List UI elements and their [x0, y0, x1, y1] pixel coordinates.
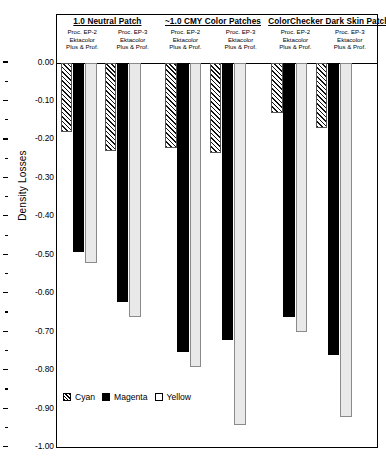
subgroup-label: Proc. EP-3EktacolorPlus & Prof. — [213, 28, 268, 62]
y-tick-minor — [5, 273, 8, 274]
y-tick-label: -0.80 — [8, 365, 54, 373]
outline-swatch-icon — [155, 393, 163, 401]
y-tick-minor — [5, 81, 8, 82]
subgroup-label-line: Proc. EP-3 — [213, 28, 268, 36]
y-tick-minor — [5, 388, 8, 389]
subgroup-label-line: Ektacolor — [268, 36, 322, 44]
bar-magenta — [328, 63, 340, 355]
bar-magenta — [283, 63, 295, 317]
legend-label: Magenta — [114, 392, 147, 402]
legend-item: Yellow — [155, 392, 192, 402]
bar-cyan — [271, 63, 283, 113]
bar-yellow — [129, 63, 141, 317]
bar-magenta — [73, 63, 85, 252]
subgroup-label-line: Plus & Prof. — [158, 43, 213, 51]
y-tick-minor — [5, 196, 8, 197]
density-losses-bar-chart: Density Losses 0.00-0.10-0.20-0.30-0.40-… — [0, 0, 386, 463]
group-title: ColorChecker Dark Skin Patch — [268, 17, 377, 26]
y-tick-minor — [5, 119, 8, 120]
subgroup-label: Proc. EP-2EktacolorPlus & Prof. — [268, 28, 322, 62]
y-tick-minor — [5, 158, 8, 159]
y-tick-label: -0.30 — [8, 173, 54, 181]
subgroup-label-line: Plus & Prof. — [323, 43, 377, 51]
subgroup-label: Proc. EP-2EktacolorPlus & Prof. — [57, 28, 107, 62]
bar-cyan — [210, 63, 222, 153]
group-header: 1.0 Neutral PatchProc. EP-2EktacolorPlus… — [57, 15, 158, 63]
chart-legend: CyanMagentaYellow — [63, 392, 191, 402]
hatched-swatch-icon — [63, 393, 71, 401]
subgroup-label-line: Ektacolor — [213, 36, 268, 44]
subgroup-label-line: Ektacolor — [57, 36, 107, 44]
group-title: 1.0 Neutral Patch — [57, 17, 158, 26]
solid-black-swatch-icon — [102, 393, 110, 401]
bar-yellow — [190, 63, 202, 367]
bar-yellow — [296, 63, 308, 332]
legend-label: Yellow — [167, 392, 192, 402]
subgroup-label-line: Proc. EP-2 — [268, 28, 322, 36]
subgroup-label-line: Plus & Prof. — [107, 43, 157, 51]
legend-item: Magenta — [102, 392, 147, 402]
subgroup-label-line: Proc. EP-2 — [158, 28, 213, 36]
y-tick-minor — [5, 427, 8, 428]
y-axis-title: Density Losses — [17, 126, 28, 246]
y-tick-label: -0.50 — [8, 250, 54, 258]
group-header-row: 1.0 Neutral PatchProc. EP-2EktacolorPlus… — [57, 15, 377, 63]
subgroup-labels: Proc. EP-2EktacolorPlus & Prof.Proc. EP-… — [57, 28, 158, 62]
y-tick-label: -0.10 — [8, 96, 54, 104]
legend-label: Cyan — [75, 392, 95, 402]
group-title: ~1.0 CMY Color Patches — [158, 17, 268, 26]
bar-magenta — [117, 63, 129, 302]
y-tick-label: -0.60 — [8, 288, 54, 296]
bar-magenta — [177, 63, 189, 352]
subgroup-label: Proc. EP-2EktacolorPlus & Prof. — [158, 28, 213, 62]
subgroup-label-line: Ektacolor — [107, 36, 157, 44]
y-tick-label: -0.90 — [8, 404, 54, 412]
y-tick-label: -0.70 — [8, 327, 54, 335]
y-tick-label: -0.20 — [8, 134, 54, 142]
bar-yellow — [340, 63, 352, 417]
subgroup-labels: Proc. EP-2EktacolorPlus & Prof.Proc. EP-… — [158, 28, 268, 62]
subgroup-label: Proc. EP-3EktacolorPlus & Prof. — [323, 28, 377, 62]
subgroup-label-line: Proc. EP-3 — [323, 28, 377, 36]
subgroup-label-line: Plus & Prof. — [213, 43, 268, 51]
subgroup-label-line: Proc. EP-2 — [57, 28, 107, 36]
subgroup-label-line: Plus & Prof. — [57, 43, 107, 51]
legend-item: Cyan — [63, 392, 95, 402]
subgroup-labels: Proc. EP-2EktacolorPlus & Prof.Proc. EP-… — [268, 28, 377, 62]
bars-container — [57, 63, 377, 447]
subgroup-label-line: Proc. EP-3 — [107, 28, 157, 36]
y-tick-label: -0.40 — [8, 211, 54, 219]
y-tick-minor — [5, 311, 8, 312]
bar-cyan — [105, 63, 117, 151]
y-tick-minor — [5, 235, 8, 236]
bar-yellow — [85, 63, 97, 263]
bar-cyan — [61, 63, 73, 132]
subgroup-label-line: Ektacolor — [323, 36, 377, 44]
subgroup-label-line: Ektacolor — [158, 36, 213, 44]
y-tick-label: -1.00 — [8, 442, 54, 450]
group-header: ColorChecker Dark Skin PatchProc. EP-2Ek… — [268, 15, 377, 63]
y-tick-minor — [5, 350, 8, 351]
y-tick-label: 0.00 — [8, 58, 54, 66]
bar-yellow — [234, 63, 246, 425]
subgroup-label: Proc. EP-3EktacolorPlus & Prof. — [107, 28, 157, 62]
bar-cyan — [316, 63, 328, 128]
plot-area: 1.0 Neutral PatchProc. EP-2EktacolorPlus… — [56, 14, 378, 448]
bar-magenta — [222, 63, 234, 340]
bar-cyan — [165, 63, 177, 148]
group-header: ~1.0 CMY Color PatchesProc. EP-2Ektacolo… — [158, 15, 268, 63]
subgroup-label-line: Plus & Prof. — [268, 43, 322, 51]
